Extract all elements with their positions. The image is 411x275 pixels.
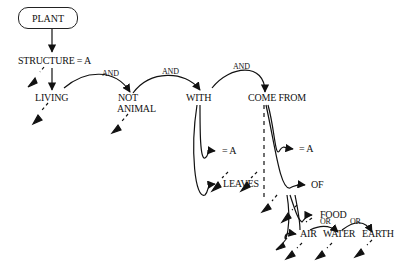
node-air: AIR [300,229,317,239]
connector-or-1: OR [320,218,331,226]
connector-and-3: AND [233,63,250,71]
node-come-from: COME FROM [248,93,306,103]
connector-and-2: AND [162,68,179,76]
node-with-equals-a: = A [222,146,236,156]
root-node-plant: PLANT [18,7,78,29]
node-structure: STRUCTURE = A [18,56,91,66]
node-with: WITH [186,93,211,103]
root-label: PLANT [32,13,64,24]
node-not: NOT [118,93,138,103]
connector-and-1: AND [102,70,119,78]
node-earth: EARTH [362,229,394,239]
node-of: OF [311,180,323,190]
node-water: WATER [323,229,355,239]
node-leaves: LEAVES [223,179,259,189]
node-animal: ANIMAL [117,104,156,114]
connector-or-2: OR [350,218,361,226]
node-come-from-equals-a: = A [299,144,313,154]
node-living: LIVING [35,93,68,103]
